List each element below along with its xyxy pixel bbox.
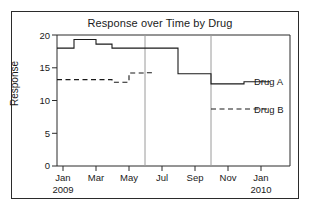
- series-line-drug-b-segment-1: [57, 73, 152, 83]
- series-label-drug-b: Drug B: [254, 104, 284, 115]
- x-tick-label-may: May: [120, 172, 138, 183]
- x-tick-label-nov: Nov: [220, 172, 237, 183]
- x-tick-label-jan-2010: Jan: [253, 172, 268, 183]
- x-tick-year-2009: 2009: [52, 184, 73, 195]
- x-tick-label-jul: Jul: [156, 172, 168, 183]
- x-tick-label-jan-2009: Jan: [55, 172, 70, 183]
- series-label-drug-a: Drug A: [254, 76, 283, 87]
- x-tick-label-mar: Mar: [88, 172, 104, 183]
- series-line-drug-a: [57, 40, 270, 84]
- x-tick-label-sep: Sep: [187, 172, 204, 183]
- x-tick-year-2010: 2010: [250, 184, 271, 195]
- chart-figure: Response over Time by Drug Response 20 1…: [0, 0, 311, 211]
